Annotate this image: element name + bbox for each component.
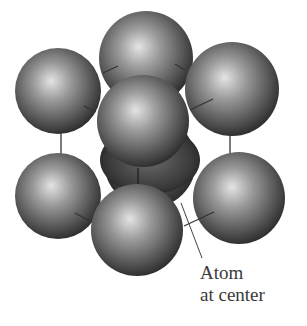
atom-lower-left (15, 153, 101, 239)
label-line-1: Atom (200, 262, 265, 284)
center-atom-label: Atom at center (200, 262, 265, 306)
atom-lower-right (193, 152, 285, 244)
atom-upper-left (15, 48, 101, 134)
atom-upper-right (185, 42, 279, 136)
label-line-2: at center (200, 284, 265, 306)
atom-lower-front (91, 184, 183, 276)
atom-top-front (97, 75, 189, 167)
